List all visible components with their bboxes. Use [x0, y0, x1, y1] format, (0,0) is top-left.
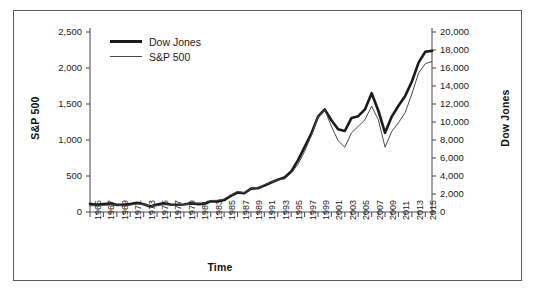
legend-swatch-sp-500 — [110, 56, 142, 57]
x-axis-tick-label: 1993 — [282, 200, 291, 220]
series-line-s-p-500 — [90, 62, 432, 207]
x-axis-tick-label: 2001 — [335, 200, 344, 220]
y-axis-left-tick-label: 500 — [28, 171, 82, 181]
x-axis-tick-label: 2009 — [389, 200, 398, 220]
y-axis-right-tick-label: 12,000 — [440, 99, 500, 109]
y-axis-left-tick-label: 1,500 — [28, 99, 82, 109]
x-axis-tick-label: 2003 — [349, 200, 358, 220]
y-axis-left-tick-label: 0 — [28, 207, 82, 217]
x-axis-title: Time — [0, 261, 440, 273]
chart-figure: S&P 500 Dow Jones Time 05001,0001,5002,0… — [0, 0, 536, 294]
x-axis-tick-label: 1979 — [188, 200, 197, 220]
y-axis-left-tick-label: 1,000 — [28, 135, 82, 145]
x-axis-tick-label: 1999 — [322, 200, 331, 220]
x-axis-tick-label: 1991 — [268, 200, 277, 220]
x-axis-tick-label: 1965 — [94, 200, 103, 220]
legend-label-sp-500: S&P 500 — [149, 51, 190, 63]
y-axis-right-tick-label: 20,000 — [440, 27, 500, 37]
legend-swatch-dow-jones — [110, 40, 142, 43]
y-axis-right-tick-label: 6,000 — [440, 153, 500, 163]
x-axis-tick-label: 1997 — [309, 200, 318, 220]
legend-item: Dow Jones — [110, 34, 201, 49]
x-axis-tick-label: 1987 — [242, 200, 251, 220]
x-axis-tick-label: 2011 — [402, 201, 411, 220]
x-axis-tick-label: 2015 — [429, 200, 438, 220]
x-axis-tick-label: 1989 — [255, 200, 264, 220]
y-axis-right-tick-label: 2,000 — [440, 189, 500, 199]
x-axis-tick-label: 1983 — [215, 200, 224, 220]
y-axis-right-tick-label: 4,000 — [440, 171, 500, 181]
x-axis-tick-label: 2005 — [362, 200, 371, 220]
x-axis-tick-label: 1971 — [134, 200, 143, 220]
y-axis-right-title: Dow Jones — [499, 78, 511, 158]
y-axis-right-tick-label: 16,000 — [440, 63, 500, 73]
y-axis-left-title: S&P 500 — [29, 78, 41, 158]
x-axis-tick-label: 1981 — [201, 200, 210, 220]
y-axis-right-tick-label: 18,000 — [440, 45, 500, 55]
chart-legend: Dow Jones S&P 500 — [110, 34, 201, 64]
y-axis-right-tick-label: 10,000 — [440, 117, 500, 127]
x-axis-tick-label: 1977 — [174, 200, 183, 220]
x-axis-tick-label: 1973 — [148, 200, 157, 220]
legend-item: S&P 500 — [110, 49, 201, 64]
legend-label-dow-jones: Dow Jones — [149, 36, 201, 48]
y-axis-left-tick-label: 2,000 — [28, 63, 82, 73]
x-axis-tick-label: 1995 — [295, 200, 304, 220]
x-axis-tick-label: 2007 — [376, 200, 385, 220]
x-axis-tick-label: 2013 — [416, 200, 425, 220]
y-axis-right-tick-label: 0 — [440, 207, 500, 217]
x-axis-tick-label: 1975 — [161, 200, 170, 220]
y-axis-left-tick-label: 2,500 — [28, 27, 82, 37]
x-axis-tick-label: 1967 — [107, 200, 116, 220]
y-axis-right-tick-label: 14,000 — [440, 81, 500, 91]
y-axis-right-tick-label: 8,000 — [440, 135, 500, 145]
x-axis-tick-label: 1985 — [228, 200, 237, 220]
x-axis-tick-label: 1969 — [121, 200, 130, 220]
